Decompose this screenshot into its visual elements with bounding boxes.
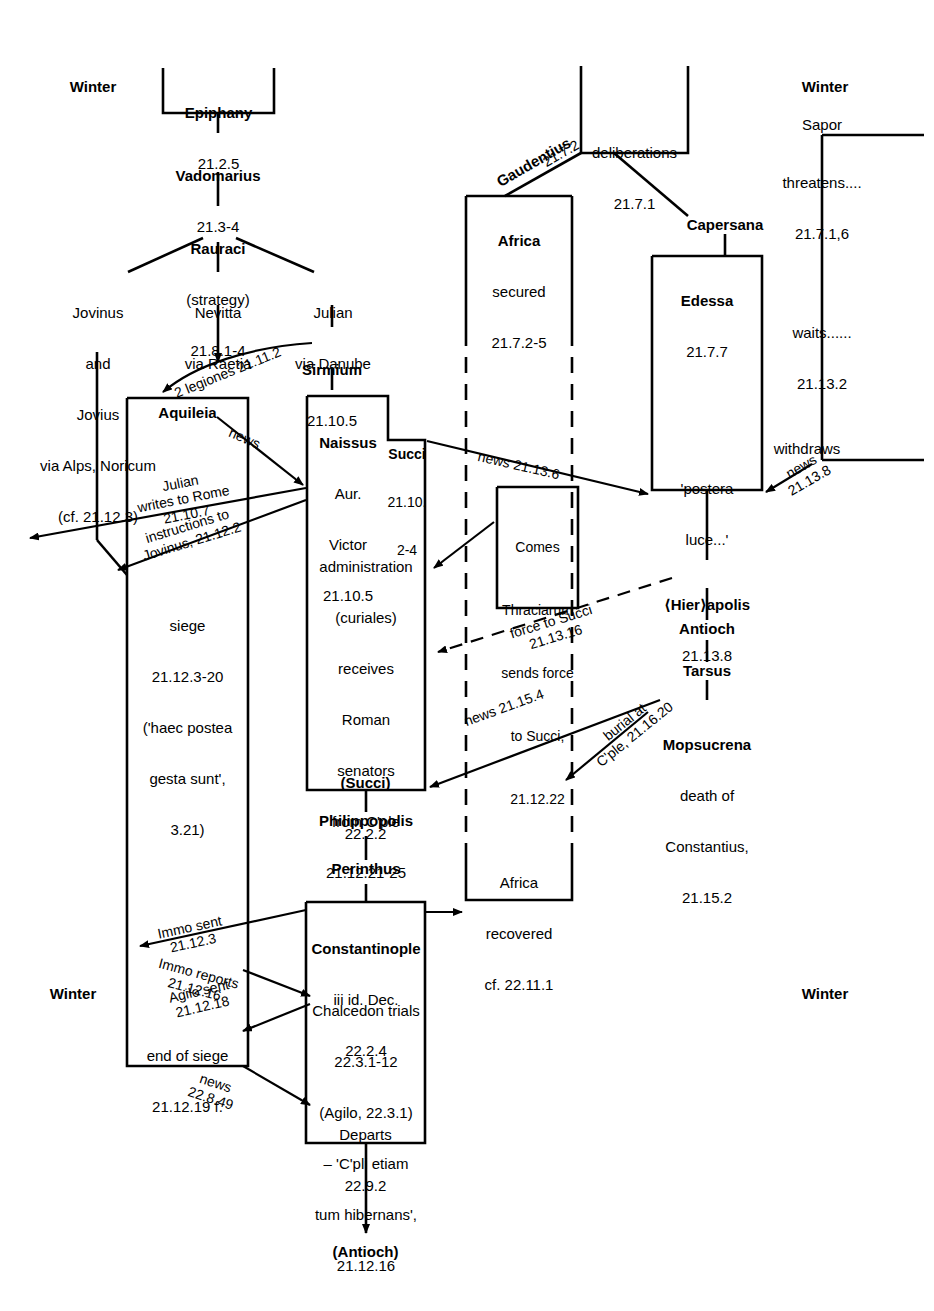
node-mopsucrena-line-0: Mopsucrena <box>637 736 777 753</box>
node-threatens: threatens.... 21.7.1,6 <box>762 140 882 259</box>
node-naissus-line-1: Aur. <box>308 485 388 502</box>
node-africa-recovered-line-0: Africa <box>466 874 572 891</box>
node-chalcedon-line-1: 22.3.1-12 <box>296 1053 436 1070</box>
node-mopsucrena-line-2: Constantius, <box>637 838 777 855</box>
node-deliberations-line-1: 21.7.1 <box>577 195 692 212</box>
node-africa-line-0: Africa <box>466 232 572 249</box>
node-deliberations-line-0: deliberations <box>577 144 692 161</box>
node-africa: Africa secured 21.7.2-5 <box>466 198 572 368</box>
node-edessa-line-0: Edessa <box>652 292 762 309</box>
node-comes-line-2: sends force <box>497 663 578 684</box>
node-siege-line-0: siege <box>112 617 263 634</box>
node-epiphany-line-0: Epiphany <box>163 104 274 121</box>
node-end-of-siege-line-1: 21.12.19 f. <box>117 1098 258 1115</box>
winter-label-top-right: Winter <box>780 78 870 95</box>
node-succi-line-1: 21.10. <box>386 494 428 510</box>
node-jovinus-line-3: via Alps, Noricum <box>17 457 179 474</box>
node-tarsus: Tarsus <box>647 662 767 679</box>
node-constantinople-line-0: Constantinople <box>300 940 432 957</box>
node-succi-line-0: Succi <box>386 446 428 462</box>
node-africa-recovered: Africa recovered cf. 22.11.1 <box>466 840 572 1010</box>
node-departs-line-1: 22.9.2 <box>306 1177 425 1194</box>
node-comes-line-0: Comes <box>497 537 578 558</box>
node-julian-line-0: Julian <box>272 304 394 321</box>
node-administration-line-0: administration <box>298 558 434 575</box>
node-deliberations: deliberations 21.7.1 <box>577 110 692 229</box>
winter-label-bottom-right: Winter <box>780 985 870 1002</box>
node-antioch: Antioch <box>647 620 767 637</box>
node-mopsucrena: Mopsucrena death of Constantius, 21.15.2 <box>637 702 777 923</box>
node-siege-line-1: 21.12.3-20 <box>112 668 263 685</box>
link-comes-to-succi <box>434 522 494 568</box>
node-administration-line-2: receives <box>298 660 434 677</box>
node-sirmium-line-0: Sirmium <box>277 361 387 378</box>
node-africa-recovered-line-1: recovered <box>466 925 572 942</box>
node-departs: Departs 22.9.2 <box>306 1092 425 1211</box>
node-threatens-line-0: threatens.... <box>762 174 882 191</box>
node-postera-luce-line-0: 'postera <box>652 480 762 497</box>
node-chalcedon-line-0: Chalcedon trials <box>296 1002 436 1019</box>
node-succi-2: (Succi) 22.2.2 <box>306 740 425 859</box>
node-mopsucrena-line-1: death of <box>637 787 777 804</box>
winter-label-top-left: Winter <box>48 78 138 95</box>
node-nevitta-line-0: Nevitta <box>155 304 281 321</box>
node-siege-line-4: 3.21) <box>112 821 263 838</box>
node-philippopolis: Philippopolis <box>296 812 436 829</box>
node-naissus-line-0: Naissus <box>308 434 388 451</box>
node-sapor: Sapor <box>772 116 872 133</box>
node-siege: siege 21.12.3-20 ('haec postea gesta sun… <box>112 583 263 855</box>
node-administration-line-1: (curiales) <box>298 609 434 626</box>
node-africa-line-2: 21.7.2-5 <box>466 334 572 351</box>
node-end-of-siege-line-0: end of siege <box>117 1047 258 1064</box>
node-comes-line-4: 21.12.22 <box>497 789 578 810</box>
node-comes-line-3: to Succi, <box>497 726 578 747</box>
node-waits-line-1: 21.13.2 <box>762 375 882 392</box>
node-postera-luce: 'postera luce...' <box>652 446 762 565</box>
node-comes-thraciarum: Comes Thraciarum sends force to Succi, 2… <box>497 495 578 831</box>
link-jovinus-join <box>97 540 127 575</box>
node-vadomarius-line-0: Vadomarius <box>148 167 288 184</box>
node-africa-recovered-line-2: cf. 22.11.1 <box>466 976 572 993</box>
node-siege-line-2: ('haec postea <box>112 719 263 736</box>
node-edessa-line-1: 21.7.7 <box>652 343 762 360</box>
node-hierapolis-line-0: ⟨Hier⟩apolis <box>637 596 777 613</box>
node-perinthus: Perinthus <box>306 860 426 877</box>
node-mopsucrena-line-3: 21.15.2 <box>637 889 777 906</box>
node-threatens-line-1: 21.7.1,6 <box>762 225 882 242</box>
node-succi-2-line-0: (Succi) <box>306 774 425 791</box>
node-africa-line-1: secured <box>466 283 572 300</box>
node-administration-line-3: Roman <box>298 711 434 728</box>
winter-label-bottom-left: Winter <box>28 985 118 1002</box>
node-aquileia: Aquileia <box>127 404 248 421</box>
node-end-of-siege: end of siege 21.12.19 f. <box>117 1013 258 1132</box>
node-waits: waits...... 21.13.2 <box>762 290 882 409</box>
node-siege-line-3: gesta sunt', <box>112 770 263 787</box>
node-waits-line-0: waits...... <box>762 324 882 341</box>
node-postera-luce-line-1: luce...' <box>652 531 762 548</box>
diagram-canvas: Winter Winter Winter Winter Epiphany 21.… <box>0 0 934 1311</box>
node-antioch-end: (Antioch) <box>306 1243 425 1260</box>
node-edessa: Edessa 21.7.7 <box>652 258 762 377</box>
node-departs-line-0: Departs <box>306 1126 425 1143</box>
node-rauraci-line-0: Rauraci <box>158 240 278 257</box>
